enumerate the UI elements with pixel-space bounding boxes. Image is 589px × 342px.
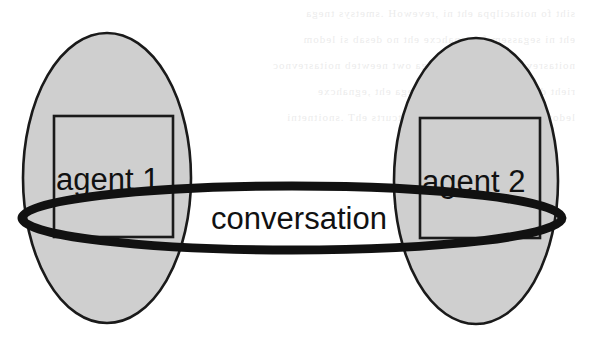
conversation-label: conversation (211, 201, 387, 236)
agent-conversation-diagram: agent 1 agent 2 conversation (0, 0, 589, 342)
figure-canvas: siht fo noitacilppa eht ni ,revewoH .sme… (0, 0, 589, 342)
